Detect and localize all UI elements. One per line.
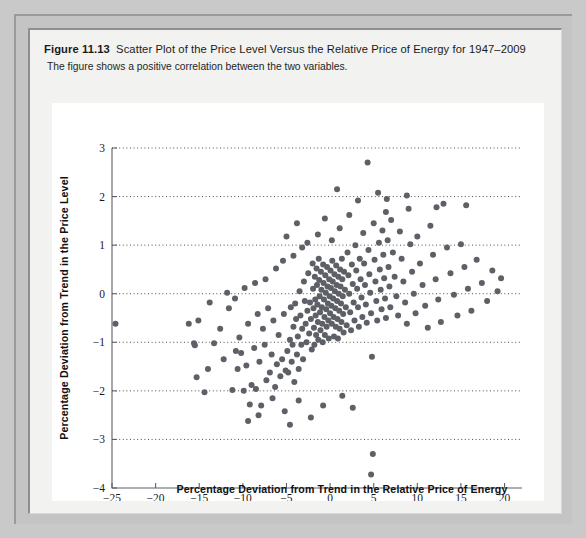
data-point	[425, 325, 431, 331]
data-point	[350, 405, 356, 411]
data-point	[351, 299, 357, 305]
y-tick-label: 0	[99, 288, 105, 300]
data-point	[238, 350, 244, 356]
data-point	[329, 258, 335, 264]
data-point	[465, 286, 471, 292]
data-point	[474, 257, 480, 263]
data-point	[402, 299, 408, 305]
data-point	[335, 335, 341, 341]
figure-frame-outer: Figure 11.13 Scatter Plot of the Price L…	[14, 14, 572, 524]
data-point	[368, 310, 374, 316]
data-point	[317, 327, 323, 333]
data-point	[299, 326, 305, 332]
data-point	[303, 321, 309, 327]
data-point	[251, 345, 257, 351]
data-point	[224, 290, 230, 296]
data-point	[430, 252, 436, 258]
data-point	[433, 276, 439, 282]
data-point	[290, 253, 296, 259]
data-point	[308, 415, 314, 421]
y-tick-label: −1	[93, 336, 105, 348]
data-point	[444, 245, 450, 251]
data-point	[357, 256, 363, 262]
data-point	[273, 265, 279, 271]
data-point	[388, 217, 394, 223]
data-point	[352, 242, 358, 248]
data-point	[291, 379, 297, 385]
data-point	[205, 366, 211, 372]
y-tick-label: −3	[93, 433, 105, 445]
data-point	[311, 342, 317, 348]
data-point	[340, 293, 346, 299]
data-point	[378, 287, 384, 293]
data-point	[359, 314, 365, 320]
data-point	[296, 398, 302, 404]
figure-page: Figure 11.13 Scatter Plot of the Price L…	[0, 0, 586, 538]
data-point	[353, 267, 359, 273]
data-point	[252, 280, 258, 286]
data-point	[346, 212, 352, 218]
data-point	[385, 237, 391, 243]
data-point	[386, 264, 392, 270]
data-point	[283, 233, 289, 239]
data-point	[241, 388, 247, 394]
data-point	[276, 332, 282, 338]
data-point	[304, 339, 310, 345]
data-point	[495, 288, 501, 294]
data-point	[399, 256, 405, 262]
data-point	[294, 351, 300, 357]
data-point	[236, 334, 242, 340]
data-point	[404, 193, 410, 199]
figure-number: Figure 11.13	[44, 43, 110, 55]
data-point	[354, 286, 360, 292]
data-point	[284, 348, 290, 354]
data-point	[221, 356, 227, 362]
data-point	[375, 190, 381, 196]
y-tick-label: 2	[99, 191, 105, 203]
scatter-plot-svg: −25−20−15−10−505101520 −4−3−2−10123 Perc…	[52, 103, 544, 501]
data-point	[298, 342, 304, 348]
data-point	[247, 401, 253, 407]
data-point	[406, 206, 412, 212]
data-point	[341, 330, 347, 336]
plot-background	[52, 103, 544, 501]
data-point	[338, 319, 344, 325]
data-point	[339, 393, 345, 399]
data-point	[294, 220, 300, 226]
data-point	[347, 309, 353, 315]
data-point	[414, 233, 420, 239]
data-point	[386, 283, 392, 289]
data-point	[355, 197, 361, 203]
data-point	[346, 291, 352, 297]
data-point	[451, 292, 457, 298]
data-point	[245, 321, 251, 327]
data-point	[355, 304, 361, 310]
data-point	[374, 317, 380, 323]
data-point	[489, 267, 495, 273]
data-point	[400, 279, 406, 285]
data-point	[300, 356, 306, 362]
y-tick-label: 3	[99, 142, 105, 154]
data-point	[390, 249, 396, 255]
data-point	[192, 342, 198, 348]
data-point	[272, 384, 278, 390]
figure-title: Scatter Plot of the Price Level Versus t…	[116, 43, 526, 55]
data-point	[279, 356, 285, 362]
data-point	[324, 324, 330, 330]
data-point	[285, 369, 291, 375]
data-point	[383, 315, 389, 321]
data-point	[256, 412, 262, 418]
data-point	[447, 270, 453, 276]
data-point	[311, 325, 317, 331]
data-point	[322, 215, 328, 221]
data-point	[217, 326, 223, 332]
data-point	[262, 342, 268, 348]
data-point	[397, 229, 403, 235]
data-point	[422, 303, 428, 309]
data-point	[258, 402, 264, 408]
data-point	[339, 276, 345, 282]
data-point	[267, 369, 273, 375]
data-point	[226, 305, 232, 311]
data-point	[235, 366, 241, 372]
data-point	[368, 471, 374, 477]
